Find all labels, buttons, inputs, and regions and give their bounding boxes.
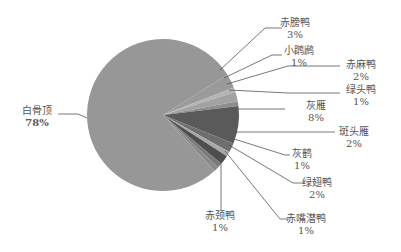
leader-line (220, 28, 282, 70)
slice-pct: 1% (205, 222, 235, 234)
label-赤嘴潜鸭: 赤嘴潜鸭 1% (286, 213, 326, 237)
slice-name: 赤麻鸭 (346, 59, 376, 70)
label-斑头雁: 斑头雁 2% (339, 126, 369, 150)
slice-pct: 3% (280, 29, 310, 41)
label-赤麻鸭: 赤麻鸭 2% (346, 59, 376, 83)
label-绿头鸭: 绿头鸭 1% (346, 84, 376, 108)
slice-pct: 2% (302, 189, 332, 201)
slice-name: 绿翅鸭 (302, 177, 332, 188)
leader-line (229, 90, 340, 93)
label-灰鹤: 灰鹤 1% (292, 148, 312, 172)
slice-pct: 1% (284, 57, 314, 69)
slice-name: 赤颈鸭 (205, 210, 235, 221)
label-赤膀鸭: 赤膀鸭 3% (280, 17, 310, 41)
pie-slices (87, 39, 239, 191)
slice-pct: 1% (346, 96, 376, 108)
label-灰雁: 灰雁 8% (306, 100, 326, 124)
slice-name: 斑头雁 (339, 126, 369, 137)
slice-name: 灰鹤 (292, 148, 312, 159)
slice-pct: 78% (22, 117, 52, 129)
label-赤颈鸭: 赤颈鸭 1% (205, 210, 235, 234)
label-白骨顶: 白骨顶 78% (22, 105, 52, 129)
slice-name: 绿头鸭 (346, 84, 376, 95)
slice-name: 灰雁 (306, 100, 326, 111)
slice-name: 赤嘴潜鸭 (286, 213, 326, 224)
slice-pct: 1% (292, 160, 312, 172)
slice-pct: 1% (286, 225, 326, 237)
leader-line (231, 138, 290, 155)
slice-name: 小䴙䴘 (284, 45, 314, 56)
slice-pct: 2% (346, 71, 376, 83)
label-绿翅鸭: 绿翅鸭 2% (302, 177, 332, 201)
label-小䴙䴘: 小䴙䴘 1% (284, 45, 314, 69)
slice-name: 赤膀鸭 (280, 17, 310, 28)
slice-pct: 2% (339, 138, 369, 150)
slice-name: 白骨顶 (22, 105, 52, 116)
slice-pct: 8% (306, 112, 326, 124)
leader-line (58, 114, 87, 118)
